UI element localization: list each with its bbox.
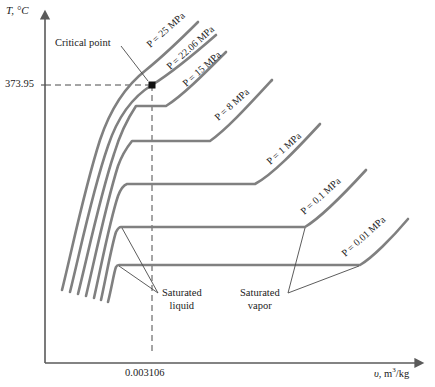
isobar-curves — [62, 22, 408, 302]
x-axis-label: υ, m3/kg — [374, 366, 409, 379]
leader-saturated-liquid-a — [122, 228, 158, 293]
y-axis-label: T, °C — [6, 4, 29, 16]
tv-diagram-figure: T, °C υ, m3/kg 373.95 0.003106 Critical … — [0, 0, 435, 387]
leader-critical-point — [121, 46, 148, 81]
saturated-liquid-label: Saturated liquid — [162, 286, 202, 312]
x-axis-tick-label: 0.003106 — [125, 367, 164, 378]
saturated-vapor-label: Saturated vapor — [240, 286, 280, 312]
leader-saturated-vapor-b — [288, 266, 359, 293]
critical-point-label: Critical point — [55, 37, 111, 48]
leader-saturated-vapor-a — [288, 228, 305, 293]
critical-point-guides — [45, 85, 152, 352]
isobar-curve-8MPa — [86, 80, 272, 296]
axis-lines — [45, 18, 416, 363]
y-axis-tick-label: 373.95 — [5, 78, 34, 89]
critical-point-marker — [149, 82, 156, 89]
